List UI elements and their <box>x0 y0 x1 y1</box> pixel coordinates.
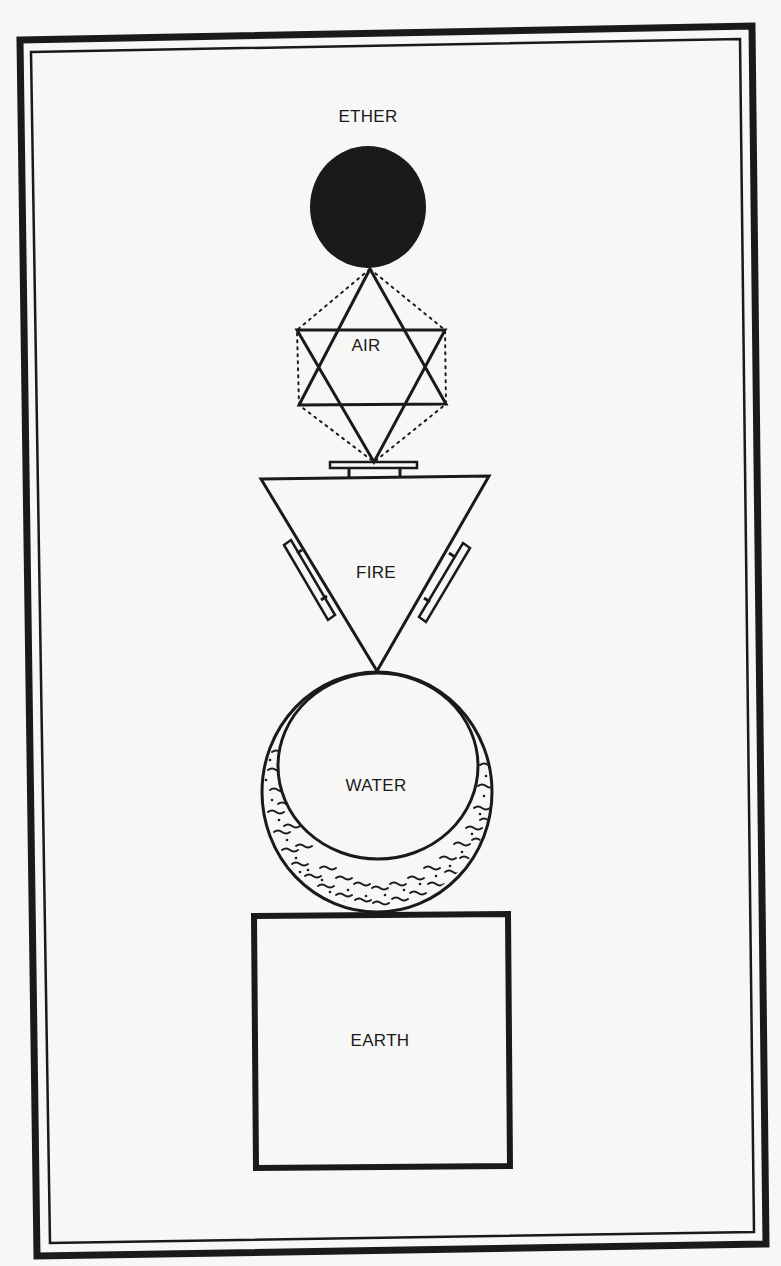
water-label: WATER <box>346 776 407 795</box>
air-fire-connector <box>330 462 417 478</box>
water-element: WATER <box>262 672 496 912</box>
water-wave-texture <box>265 751 496 908</box>
earth-element: EARTH <box>254 914 510 1168</box>
five-elements-diagram: ETHER AIR FIRE <box>0 0 781 1266</box>
ether-label: ETHER <box>338 107 397 126</box>
fire-left-bar <box>284 540 335 620</box>
air-label: AIR <box>351 336 380 355</box>
fire-label: FIRE <box>356 563 396 582</box>
fire-element: FIRE <box>261 476 489 671</box>
water-inner-circle <box>278 673 478 859</box>
ether-circle <box>310 146 426 268</box>
air-element: AIR <box>297 269 446 462</box>
ether-element: ETHER <box>310 107 426 268</box>
earth-label: EARTH <box>351 1031 410 1050</box>
